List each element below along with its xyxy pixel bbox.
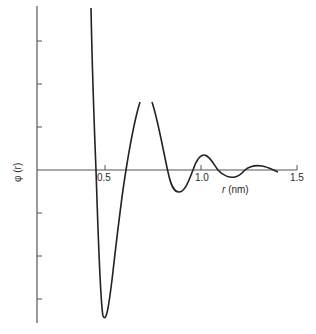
x-axis-label-variable: r bbox=[222, 184, 225, 195]
y-axis-label: φ (r) bbox=[12, 163, 23, 182]
potential-chart bbox=[0, 0, 316, 334]
x-tick-label-0-5: 0.5 bbox=[97, 172, 111, 183]
x-tick-label-1-5: 1.5 bbox=[290, 172, 304, 183]
potential-curve-right bbox=[152, 102, 278, 192]
potential-curve-left bbox=[91, 8, 140, 318]
x-axis-label-unit: (nm) bbox=[228, 184, 249, 195]
x-tick-label-1-0: 1.0 bbox=[195, 172, 209, 183]
x-axis-label: r (nm) bbox=[222, 184, 249, 195]
